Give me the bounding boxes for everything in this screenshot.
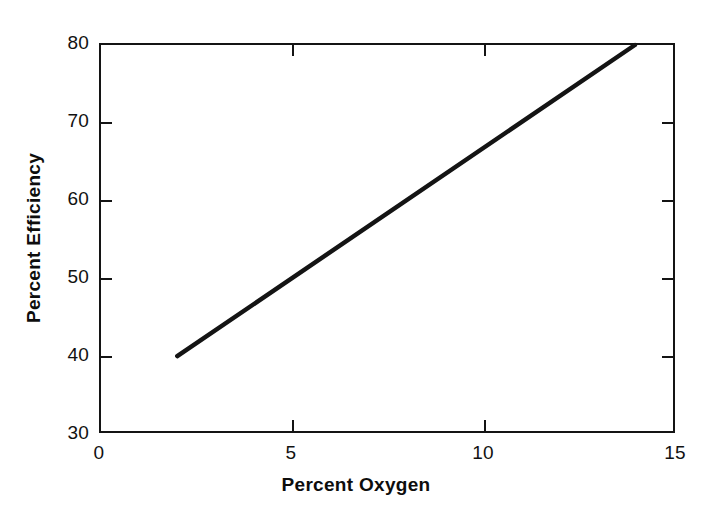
y-tick-right-50 [662,278,673,281]
x-tick-label: 0 [94,442,105,464]
x-tick-top-5 [292,45,295,56]
data-line-svg [101,45,673,431]
y-axis-label-container: Percent Efficiency [14,0,54,476]
x-tick-label: 15 [664,442,686,464]
y-tick-left-40 [101,356,112,359]
plot-area [99,43,675,433]
y-tick-right-60 [662,200,673,203]
x-tick-top-10 [484,45,487,56]
y-tick-right-40 [662,356,673,359]
y-tick-right-70 [662,122,673,125]
x-tick-bottom-5 [292,420,295,431]
data-series-line [177,45,635,356]
x-axis-label: Percent Oxygen [0,474,712,496]
x-tick-bottom-10 [484,420,487,431]
y-tick-left-50 [101,278,112,281]
y-tick-left-60 [101,200,112,203]
y-tick-left-70 [101,122,112,125]
x-tick-label: 10 [472,442,494,464]
chart-figure: 051015 304050607080 Percent Efficiency P… [0,0,712,518]
y-axis-label: Percent Efficiency [23,153,45,323]
x-tick-label: 5 [286,442,297,464]
